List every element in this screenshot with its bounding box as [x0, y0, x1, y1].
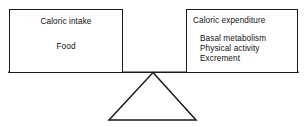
expenditure-item-physical-activity: Physical activity: [200, 44, 266, 54]
energy-balance-diagram: Caloric intake Food Caloric expenditure …: [0, 0, 307, 127]
expenditure-item-excrement: Excrement: [200, 54, 266, 64]
caloric-expenditure-items: Basal metabolism Physical activity Excre…: [200, 34, 266, 65]
caloric-expenditure-box: Caloric expenditure Basal metabolism Phy…: [186, 9, 298, 73]
caloric-intake-box: Caloric intake Food: [9, 9, 123, 73]
fulcrum-triangle: [109, 73, 196, 121]
caloric-expenditure-heading: Caloric expenditure: [193, 16, 265, 25]
caloric-intake-items: Food: [10, 42, 122, 52]
caloric-intake-heading: Caloric intake: [10, 17, 122, 26]
expenditure-item-basal-metabolism: Basal metabolism: [200, 34, 266, 44]
intake-item-food: Food: [10, 42, 122, 52]
